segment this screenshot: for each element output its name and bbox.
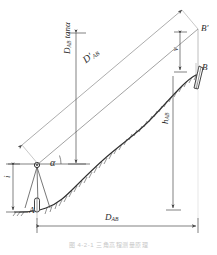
height-difference-label: hAB bbox=[161, 113, 171, 124]
instrument-height-dimension bbox=[6, 164, 20, 212]
point-a-label: A bbox=[29, 206, 35, 215]
vertical-angle-label: α bbox=[50, 158, 55, 168]
terrain-profile bbox=[13, 71, 202, 216]
point-b-label: B bbox=[202, 63, 208, 72]
slope-distance-dimension bbox=[22, 10, 198, 164]
target-height-label: v bbox=[172, 47, 180, 51]
horizontal-distance-label: DAB bbox=[105, 213, 118, 223]
figure-container: D′AB DAB tanα hAB DAB α i v B′ B A 图 4-2… bbox=[0, 0, 217, 255]
ground-line-at-a bbox=[13, 212, 28, 216]
height-difference-dimension bbox=[166, 76, 181, 210]
vertical-rise-label: DAB tanα bbox=[63, 22, 73, 54]
figure-caption: 图 4-2-1 三角高程测量原理 bbox=[0, 240, 217, 249]
point-b-prime-label: B′ bbox=[201, 24, 208, 33]
instrument-height-label: i bbox=[3, 175, 12, 178]
vertical-angle-arc bbox=[60, 156, 62, 165]
